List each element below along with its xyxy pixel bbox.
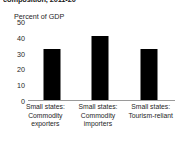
y-tick-label: 50	[17, 19, 25, 26]
chart-figure: composition, 2011-20 Percent of GDP 50 4…	[0, 0, 177, 141]
x-tick-label-line: Commodity	[20, 112, 71, 121]
x-tick-label-line: Small states:	[125, 103, 176, 112]
chart-title: composition, 2011-20	[3, 0, 177, 4]
bar-slot	[28, 22, 76, 101]
bar-commodity-exporters	[44, 49, 61, 101]
bar-commodity-importers	[92, 36, 109, 101]
y-tick-label: 40	[17, 34, 25, 41]
x-tick-label-line: importers	[73, 120, 124, 129]
x-tick-label-line: Small states:	[73, 103, 124, 112]
x-tick-label-line: Small states:	[20, 103, 71, 112]
y-tick-label: 20	[17, 66, 25, 73]
y-tick-label: 10	[17, 82, 25, 89]
x-tick-label-commodity-exporters: Small states:Commodityexporters	[19, 103, 72, 139]
x-axis-baseline	[28, 100, 175, 101]
bar-tourism-reliant	[140, 49, 157, 101]
y-axis-tick-labels: 50 40 30 20 10 0	[8, 22, 25, 101]
x-tick-label-tourism-reliant: Small states:Tourism-reliant	[124, 103, 177, 139]
bar-slot	[76, 22, 124, 101]
x-tick-label-line: Commodity	[73, 112, 124, 121]
bar-slot	[125, 22, 173, 101]
y-tick-label: 30	[17, 50, 25, 57]
x-tick-label-commodity-importers: Small states:Commodityimporters	[72, 103, 125, 139]
bar-series	[28, 22, 173, 101]
x-axis-tick-labels: Small states:Commodityexporters Small st…	[19, 103, 177, 139]
x-tick-label-line: Tourism-reliant	[125, 112, 176, 121]
x-tick-label-line: exporters	[20, 120, 71, 129]
